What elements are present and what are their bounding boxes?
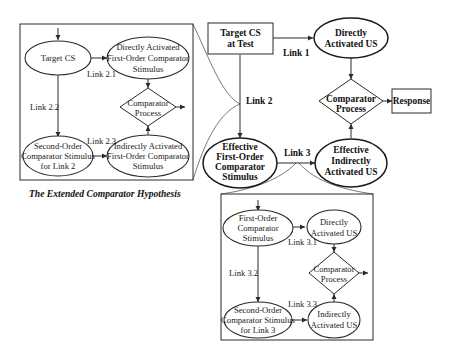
panel2-target-cs-node: Target CS (25, 41, 91, 75)
link3-1-label: Link 3.1 (288, 237, 317, 247)
panel2-comparator-label-1: Comparator (127, 98, 168, 108)
panel2-comparator-node: Comparator Process (120, 88, 176, 126)
response-node: Response (392, 89, 431, 113)
panel2-direct-first-label-3: Stimulus (133, 64, 164, 74)
link1-label: Link 1 (283, 48, 310, 58)
panel2-indirect-first-order-node: Indirectly Activated First-Order Compara… (107, 135, 189, 177)
panel3-second-order-node: Second-Order Comparator Stimulus for Lin… (221, 302, 295, 338)
target-cs-at-test-node: Target CS at Test (208, 23, 273, 54)
effective-indirect-label-2: Indirectly (331, 156, 371, 166)
target-cs-label-2: at Test (227, 39, 254, 49)
main-comparator-process-node: Comparator Process (319, 79, 383, 124)
effective-first-order-node: Effective First-Order Comparator Stimulu… (203, 138, 277, 188)
panel3-comparator-label-1: Comparator (313, 264, 354, 274)
comparator-label-2: Process (336, 104, 366, 114)
effective-indirect-label-3: Activated US (325, 167, 378, 177)
effective-first-label-2: First-Order (216, 152, 263, 162)
effective-first-label-3: Comparator (215, 162, 265, 172)
directly-activated-us-node: Directly Activated US (314, 18, 388, 58)
main-diagram: Target CS at Test Directly Activated US … (203, 18, 431, 188)
link2-expansion-panel: Target CS Directly Activated First-Order… (20, 24, 193, 180)
panel3-second-order-label-1: Second-Order (234, 305, 282, 315)
effective-indirect-us-node: Effective Indirectly Activated US (315, 139, 387, 187)
panel2-direct-first-order-node: Directly Activated First-Order Comparato… (107, 37, 189, 79)
panel2-direct-first-label-2: First-Order Comparator (107, 53, 189, 63)
diagram-caption: The Extended Comparator Hypothesis (29, 188, 181, 199)
panel3-second-order-label-2: Comparator Stimulus (221, 315, 295, 325)
panel3-first-order-label-2: Comparator (237, 223, 278, 233)
panel3-indirect-us-label-2: Activated US (311, 320, 358, 330)
panel2-indirect-first-label-1: Indirectly Activated (114, 141, 183, 151)
panel3-second-order-label-3: for Link 3 (241, 325, 276, 335)
link2-3-label: Link 2.3 (87, 136, 116, 146)
panel3-comparator-node: Comparator Process (309, 252, 359, 294)
panel2-second-order-label-2: Comparator Stimulus (21, 151, 95, 161)
panel3-first-order-label-3: Stimulus (243, 233, 274, 243)
panel3-first-order-label-1: First-Order (239, 213, 278, 223)
panel3-direct-us-label-1: Directly (320, 217, 349, 227)
panel3-direct-us-label-2: Activated US (311, 228, 358, 238)
panel2-indirect-first-label-2: First-Order Comparator (107, 151, 189, 161)
panel3-comparator-label-2: Process (321, 274, 348, 284)
effective-first-label-1: Effective (222, 142, 257, 152)
panel3-indirect-us-label-1: Indirectly (317, 309, 351, 319)
link3-3-label: Link 3.3 (288, 299, 317, 309)
direct-us-label: Directly (335, 28, 367, 38)
link2-label: Link 2 (246, 96, 273, 106)
effective-indirect-label-1: Effective (333, 145, 368, 155)
panel2-target-cs-label: Target CS (41, 53, 76, 63)
link2-2-label: Link 2.2 (30, 102, 59, 112)
panel2-second-order-label-3: for Link 2 (41, 161, 76, 171)
panel2-comparator-label-2: Process (135, 108, 162, 118)
panel2-second-order-node: Second-Order Comparator Stimulus for Lin… (21, 136, 95, 176)
comparator-label: Comparator (326, 94, 376, 104)
response-label: Response (393, 96, 431, 106)
link3-label: Link 3 (284, 148, 311, 158)
direct-us-label-2: Activated US (325, 39, 378, 49)
link3-expansion-panel: First-Order Comparator Stimulus Directly… (221, 194, 373, 340)
target-cs-label: Target CS (220, 28, 261, 38)
link2-1-label: Link 2.1 (87, 69, 116, 79)
panel3-first-order-node: First-Order Comparator Stimulus (223, 210, 293, 246)
panel2-direct-first-label-1: Directly Activated (116, 42, 180, 52)
link3-2-label: Link 3.2 (229, 268, 258, 278)
panel2-indirect-first-label-3: Stimulus (133, 161, 164, 171)
comparator-hypothesis-diagram: Target CS at Test Directly Activated US … (0, 0, 457, 355)
panel2-second-order-label-1: Second-Order (34, 141, 82, 151)
effective-first-label-4: Stimulus (222, 172, 258, 182)
